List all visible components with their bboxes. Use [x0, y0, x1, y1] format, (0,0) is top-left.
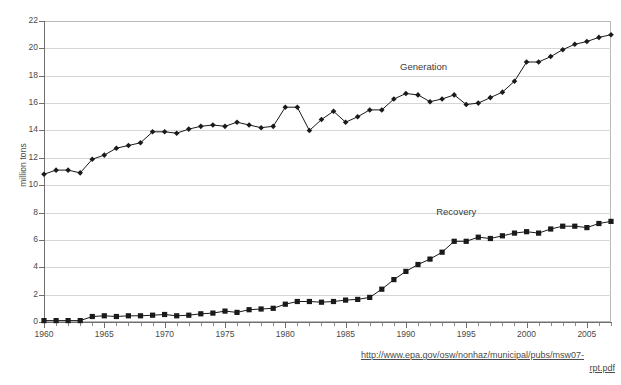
data-point-marker-square	[222, 309, 227, 314]
data-point-marker-square	[572, 224, 577, 229]
data-point-marker-square	[78, 318, 83, 323]
data-point-marker-square	[247, 307, 252, 312]
data-point-marker-square	[367, 295, 372, 300]
data-point-marker-diamond	[403, 91, 409, 97]
data-point-marker-diamond	[162, 129, 168, 135]
data-point-marker-diamond	[427, 99, 433, 105]
series-line-recovery	[44, 221, 611, 320]
data-point-marker-diamond	[198, 124, 204, 130]
data-point-marker-diamond	[126, 143, 132, 149]
data-point-marker-square	[608, 219, 613, 224]
data-point-marker-diamond	[114, 145, 120, 151]
data-point-marker-square	[54, 318, 59, 323]
data-point-marker-diamond	[367, 107, 373, 113]
data-point-marker-square	[307, 299, 312, 304]
data-point-marker-diamond	[415, 92, 421, 98]
data-point-marker-square	[295, 299, 300, 304]
data-point-marker-diamond	[174, 130, 180, 136]
data-point-marker-diamond	[102, 152, 108, 158]
data-point-marker-square	[512, 231, 517, 236]
data-point-marker-square	[452, 239, 457, 244]
data-point-marker-square	[500, 233, 505, 238]
data-point-marker-diamond	[608, 32, 614, 38]
data-point-marker-square	[403, 269, 408, 274]
data-point-marker-diamond	[270, 124, 276, 130]
data-point-marker-square	[476, 235, 481, 240]
data-point-marker-square	[464, 239, 469, 244]
data-point-marker-diamond	[246, 122, 252, 128]
data-point-marker-diamond	[560, 47, 566, 53]
data-point-marker-square	[66, 318, 71, 323]
data-point-marker-square	[596, 221, 601, 226]
data-point-marker-diamond	[210, 122, 216, 128]
data-point-marker-diamond	[282, 104, 288, 110]
series-label-recovery: Recovery	[436, 206, 476, 217]
data-point-marker-square	[186, 313, 191, 318]
data-point-marker-diamond	[584, 39, 590, 45]
data-point-marker-square	[162, 312, 167, 317]
data-point-marker-diamond	[65, 167, 71, 173]
data-point-marker-diamond	[355, 114, 361, 120]
source-url-link[interactable]: http://www.epa.gov/osw/nonhaz/municipal/…	[330, 349, 615, 375]
data-point-marker-square	[391, 277, 396, 282]
data-point-marker-square	[331, 299, 336, 304]
data-point-marker-diamond	[295, 104, 301, 110]
data-point-marker-square	[198, 311, 203, 316]
data-point-marker-diamond	[234, 119, 240, 125]
data-series-group	[0, 0, 621, 385]
data-point-marker-diamond	[439, 96, 445, 102]
data-point-marker-square	[271, 306, 276, 311]
data-point-marker-diamond	[536, 59, 542, 65]
data-point-marker-square	[138, 313, 143, 318]
data-point-marker-square	[174, 313, 179, 318]
data-point-marker-square	[126, 313, 131, 318]
data-point-marker-square	[319, 300, 324, 305]
data-point-marker-square	[524, 229, 529, 234]
data-point-marker-square	[234, 310, 239, 315]
data-point-marker-square	[41, 318, 46, 323]
data-point-marker-diamond	[548, 54, 554, 60]
data-point-marker-diamond	[258, 125, 264, 131]
data-point-marker-square	[114, 314, 119, 319]
series-label-generation: Generation	[400, 61, 447, 72]
data-point-marker-square	[379, 287, 384, 292]
data-point-marker-square	[440, 250, 445, 255]
data-point-marker-square	[355, 297, 360, 302]
data-point-marker-square	[102, 313, 107, 318]
data-point-marker-diamond	[222, 124, 228, 130]
data-point-marker-square	[343, 298, 348, 303]
data-point-marker-square	[536, 231, 541, 236]
data-point-marker-square	[90, 314, 95, 319]
data-point-marker-diamond	[488, 95, 494, 101]
data-point-marker-square	[488, 236, 493, 241]
source-url-line1: http://www.epa.gov/osw/nonhaz/municipal/…	[361, 350, 584, 360]
data-point-marker-square	[210, 311, 215, 316]
data-point-marker-square	[283, 302, 288, 307]
data-point-marker-diamond	[41, 171, 47, 177]
data-point-marker-diamond	[596, 35, 602, 41]
data-point-marker-square	[259, 306, 264, 311]
data-point-marker-square	[150, 313, 155, 318]
data-point-marker-square	[548, 226, 553, 231]
data-point-marker-diamond	[186, 126, 192, 132]
data-point-marker-diamond	[53, 167, 59, 173]
data-point-marker-square	[415, 262, 420, 267]
data-point-marker-diamond	[572, 41, 578, 47]
data-point-marker-square	[560, 224, 565, 229]
chart-figure: Municipal Solid Waste Generation and Rec…	[0, 0, 621, 385]
source-url-line2: rpt.pdf	[330, 362, 615, 375]
data-point-marker-diamond	[475, 100, 481, 106]
data-point-marker-square	[427, 257, 432, 262]
data-point-marker-diamond	[524, 59, 530, 65]
data-point-marker-square	[584, 225, 589, 230]
series-line-generation	[44, 35, 611, 175]
